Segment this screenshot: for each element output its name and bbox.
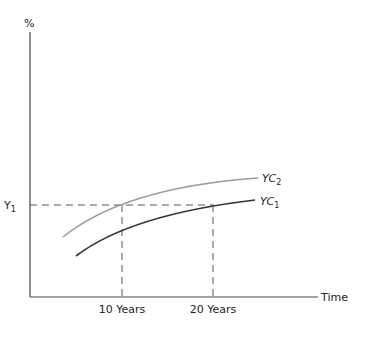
yc2-curve bbox=[63, 178, 258, 237]
tick-label-10-years: 10 Years bbox=[99, 303, 146, 316]
y1-label: Y1 bbox=[3, 199, 16, 214]
y-axis-label: % bbox=[24, 17, 34, 30]
yc1-curve bbox=[76, 200, 255, 256]
x-axis-label: Time bbox=[320, 291, 348, 304]
yc2-label: YC2 bbox=[262, 172, 281, 187]
yield-curve-diagram: % Time Y1 YC2 YC1 10 Years 20 Years bbox=[0, 0, 367, 338]
tick-label-20-years: 20 Years bbox=[190, 303, 237, 316]
yc1-label: YC1 bbox=[260, 195, 279, 210]
